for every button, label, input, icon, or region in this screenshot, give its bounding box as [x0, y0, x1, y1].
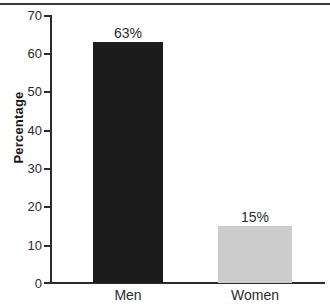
x-category-label-women: Women [218, 288, 292, 302]
bar-women[interactable] [218, 226, 292, 283]
bar-value-label-women: 15% [218, 210, 292, 224]
y-tick-label-30: 30 [2, 162, 42, 175]
y-axis-spine [50, 15, 52, 284]
y-tick-label-20: 20 [2, 200, 42, 213]
x-category-label-men: Men [93, 288, 163, 302]
y-tick-label-70: 70 [2, 9, 42, 22]
y-tick-label-50: 50 [2, 85, 42, 98]
bar-value-label-men: 63% [93, 26, 163, 40]
y-tick-label-0: 0 [2, 277, 42, 290]
y-tick-label-10: 10 [2, 239, 42, 252]
top-border-rule [0, 3, 330, 5]
y-tick-label-60: 60 [2, 47, 42, 60]
y-tick-label-40: 40 [2, 124, 42, 137]
bar-chart-figure: Percentage 70 60 50 40 30 20 10 0 63% 15… [0, 0, 330, 305]
bar-men[interactable] [93, 42, 163, 283]
